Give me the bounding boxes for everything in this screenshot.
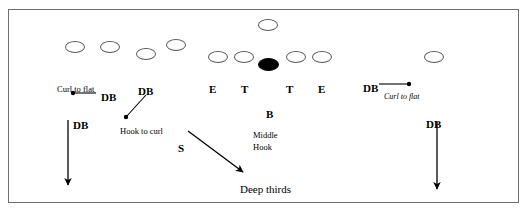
position-label-e-right: E	[318, 84, 325, 95]
offense-lineman-left-end	[208, 51, 228, 63]
position-label-db-right-flat: DB	[363, 83, 378, 94]
offense-player-left-slot	[100, 41, 120, 53]
offense-player-left-inside	[136, 48, 156, 60]
zone-label-hook: Hook	[253, 143, 272, 152]
offense-lineman-right-end	[312, 51, 332, 63]
position-label-db-left-flat: DB	[101, 92, 116, 103]
field-frame: DBDBETTEDBBDBSDBCurl to flatCurl to flat…	[8, 9, 519, 203]
offense-player-top-center	[258, 19, 278, 31]
zone-label-curl-to-flat-right: Curl to flat	[384, 93, 420, 101]
zone-label-deep-thirds: Deep thirds	[240, 184, 291, 195]
position-label-b-middle: B	[266, 109, 273, 120]
zone-label-curl-to-flat-left: Curl to flat	[57, 85, 94, 94]
offense-player-right-wide	[424, 51, 444, 63]
position-label-db-left-hook: DB	[138, 86, 153, 97]
position-label-s-safety: S	[178, 143, 184, 154]
play-diagram: DBDBETTEDBBDBSDBCurl to flatCurl to flat…	[0, 0, 530, 215]
offense-player-left-wide	[65, 41, 85, 53]
position-label-t-left: T	[241, 84, 248, 95]
offense-lineman-left-tackle	[234, 51, 254, 63]
zone-label-middle: Middle	[253, 131, 278, 140]
offense-player-left-high	[166, 39, 186, 51]
football-center	[258, 58, 279, 71]
position-label-db-right-deep: DB	[426, 119, 441, 130]
zone-label-hook-to-curl: Hook to curl	[120, 127, 163, 136]
position-label-t-right: T	[286, 84, 293, 95]
offense-lineman-right-tackle	[286, 51, 306, 63]
position-label-e-left: E	[209, 84, 216, 95]
position-label-db-left-deep: DB	[73, 120, 88, 131]
